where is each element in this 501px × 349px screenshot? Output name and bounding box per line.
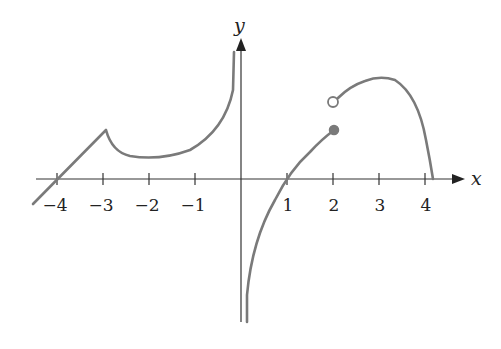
open-point (328, 97, 338, 107)
tick-label: −4 (42, 195, 67, 215)
x-tick-labels: −4 −3 −2 −1 1 2 3 4 (42, 195, 431, 215)
tick-label: −2 (134, 195, 159, 215)
tick-label: −3 (88, 195, 113, 215)
x-axis-label: x (471, 167, 482, 189)
function-graph: x y −4 −3 −2 −1 1 2 3 4 (0, 0, 501, 349)
tick-label: −1 (180, 195, 205, 215)
closed-point (330, 126, 339, 135)
y-axis-arrow-icon (236, 38, 246, 51)
tick-label: 3 (375, 195, 386, 215)
y-axis-label: y (233, 14, 245, 36)
curve-right-piece (338, 78, 433, 179)
x-axis-arrow-icon (452, 174, 465, 184)
curve-middle-piece (247, 131, 333, 322)
curve-left-piece (33, 52, 234, 204)
tick-label: 4 (421, 195, 432, 215)
tick-label: 1 (283, 195, 294, 215)
tick-label: 2 (329, 195, 340, 215)
